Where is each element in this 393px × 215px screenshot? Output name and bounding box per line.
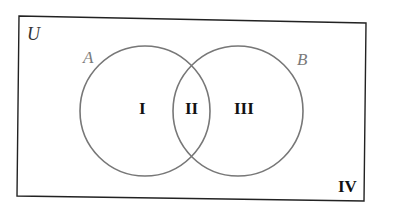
set-a-label: A xyxy=(82,48,94,67)
region-ii-label: II xyxy=(185,99,199,118)
region-iii-label: III xyxy=(234,99,254,118)
region-iv-label: IV xyxy=(338,177,358,196)
venn-diagram: U A B I II III IV xyxy=(0,0,393,215)
universe-label: U xyxy=(27,24,41,44)
region-i-label: I xyxy=(139,99,146,118)
set-b-label: B xyxy=(297,50,308,69)
